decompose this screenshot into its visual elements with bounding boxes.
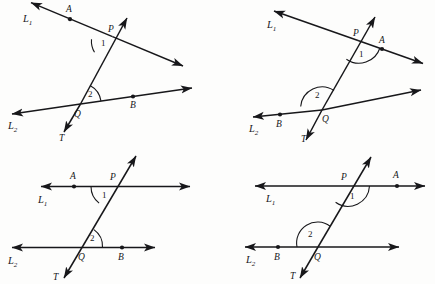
label-B: B	[118, 252, 124, 262]
label-A: A	[392, 170, 399, 180]
label-P: P	[107, 24, 114, 34]
label-L2: L2	[7, 255, 18, 269]
label-A: A	[65, 4, 72, 14]
line-L2	[322, 90, 421, 110]
label-P: P	[340, 172, 347, 182]
line-L2-left-ray	[12, 104, 81, 114]
transversal-T-lower-ray	[306, 110, 322, 140]
label-A: A	[378, 35, 385, 45]
label-angle-1: 1	[359, 49, 364, 59]
label-B: B	[130, 100, 136, 110]
line-L2-left-ray	[253, 110, 322, 117]
label-L1: L1	[22, 13, 32, 27]
label-L2: L2	[245, 254, 256, 268]
label-angle-2: 2	[88, 89, 93, 99]
transversal-T	[318, 157, 371, 247]
label-angle-1: 1	[350, 191, 355, 201]
label-L2: L2	[248, 123, 259, 137]
point-A-dot	[395, 184, 399, 188]
point-A-dot	[68, 17, 72, 21]
label-B: B	[274, 252, 280, 262]
label-T: T	[59, 133, 65, 142]
angle-2-arc	[94, 230, 103, 248]
label-Q: Q	[78, 252, 85, 262]
line-L2	[81, 88, 193, 104]
angle-1-arc	[91, 39, 94, 52]
panel-bottom-left: L1 L2 T P Q A B 1 2	[0, 142, 218, 284]
label-T: T	[290, 271, 296, 281]
label-T: T	[301, 134, 307, 142]
point-B-dot	[120, 245, 124, 249]
point-A-dot	[72, 184, 76, 188]
label-A: A	[69, 171, 76, 181]
label-T: T	[53, 272, 59, 282]
label-B: B	[276, 119, 282, 129]
point-B-dot	[276, 245, 280, 249]
line-L1	[113, 37, 184, 66]
point-A-dot	[380, 47, 384, 51]
label-angle-2: 2	[315, 90, 320, 100]
label-angle-2: 2	[90, 233, 95, 243]
label-P: P	[352, 28, 359, 38]
label-L1: L1	[265, 193, 275, 207]
point-B-dot	[131, 94, 135, 98]
label-Q: Q	[322, 114, 329, 124]
line-L1	[358, 41, 423, 64]
label-angle-1: 1	[101, 38, 106, 48]
label-L1: L1	[266, 19, 276, 33]
geometry-figure-sheet: L1 L2 T P Q A B 1 2	[0, 0, 435, 284]
label-Q: Q	[314, 252, 321, 262]
label-L2: L2	[7, 120, 18, 134]
panel-top-right: L1 L2 T P Q A B 1 2	[218, 0, 435, 142]
line-L1-left-ray	[274, 11, 358, 41]
point-B-dot	[278, 112, 282, 116]
angle-1-arc	[91, 187, 99, 204]
label-P: P	[109, 172, 116, 182]
label-Q: Q	[74, 109, 81, 119]
panel-bottom-right: L1 L2 T P Q A B 1 2	[218, 142, 435, 284]
label-L1: L1	[37, 194, 47, 208]
label-angle-2: 2	[308, 229, 313, 239]
panel-top-left: L1 L2 T P Q A B 1 2	[0, 0, 218, 142]
label-angle-1: 1	[102, 190, 107, 200]
